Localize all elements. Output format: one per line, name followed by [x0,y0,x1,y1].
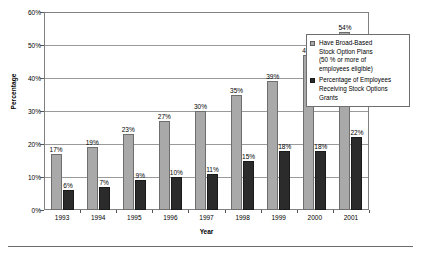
bar[interactable] [315,151,326,210]
bar[interactable] [195,111,206,210]
bar[interactable] [171,177,182,210]
legend-label-line: employees eligible) [319,65,406,74]
bar-group: 17%6% [51,12,74,210]
bar-value-label: 54% [338,24,351,31]
x-axis-tick-labels: 199319941995199619971998199920002001 [44,214,369,226]
x-axis-tick-mark [333,210,334,213]
legend-label-line: Have Broad-Based [319,39,406,48]
bar-value-label: 30% [194,103,207,110]
legend-label-line: (50 % or more of [319,56,406,65]
bar[interactable] [51,154,62,210]
x-axis-tick-mark [369,210,370,213]
bar-value-label: 18% [278,143,291,150]
bar-group: 19%7% [87,12,110,210]
legend-entry[interactable]: Percentage of EmployeesReceiving Stock O… [310,76,406,102]
x-axis-tick-label: 2000 [308,214,322,221]
x-axis-tick-label: 1994 [91,214,105,221]
x-axis-tick-label: 1993 [55,214,69,221]
legend-label-line: Receiving Stock Options [319,85,406,94]
bar-value-label: 9% [136,172,145,179]
bar-value-label: 19% [86,139,99,146]
footer-divider [8,246,413,247]
bar-chart-figure: Percentage 0%10%20%30%40%50%60% 17%6%19%… [0,0,421,258]
bar[interactable] [123,134,134,210]
bar-value-label: 22% [350,129,363,136]
bar[interactable] [87,147,98,210]
legend-label-line: Stock Option Plans [319,48,406,57]
bar-group: 39%18% [267,12,290,210]
bar[interactable] [267,81,278,210]
bar[interactable] [159,121,170,210]
x-axis-tick-label: 1996 [163,214,177,221]
bar-value-label: 6% [63,182,72,189]
x-axis-tick-mark [152,210,153,213]
legend-label-line: Grants [319,94,406,103]
bar-group: 23%9% [123,12,146,210]
x-axis-tick-label: 1998 [235,214,249,221]
bar-value-label: 23% [122,126,135,133]
bar-value-label: 35% [230,87,243,94]
bar-group: 35%15% [231,12,254,210]
bar-group: 30%11% [195,12,218,210]
bar-value-label: 15% [242,153,255,160]
x-axis-tick-mark [116,210,117,213]
bar-value-label: 18% [314,143,327,150]
bar-value-label: 39% [266,73,279,80]
bar-value-label: 11% [206,166,219,173]
x-axis-tick-mark [188,210,189,213]
x-axis-tick-mark [80,210,81,213]
bar-value-label: 27% [158,113,171,120]
x-axis-tick-label: 1995 [127,214,141,221]
bar[interactable] [135,180,146,210]
x-axis-tick-label: 2001 [344,214,358,221]
bar[interactable] [99,187,110,210]
x-axis-tick-label: 1999 [271,214,285,221]
x-axis-tick-mark [261,210,262,213]
bar-value-label: 7% [99,179,108,186]
bar[interactable] [207,174,218,210]
x-axis-tick-mark [225,210,226,213]
legend-entry[interactable]: Have Broad-BasedStock Option Plans(50 % … [310,39,406,73]
bar-value-label: 10% [170,169,183,176]
bar-value-label: 17% [50,146,63,153]
x-axis-tick-label: 1997 [199,214,213,221]
bar[interactable] [351,137,362,210]
chart-legend: Have Broad-BasedStock Option Plans(50 % … [306,34,410,107]
x-axis-title: Year [44,228,369,235]
bar[interactable] [231,95,242,211]
legend-swatch-icon [310,78,315,83]
bar[interactable] [279,151,290,210]
bar-group: 27%10% [159,12,182,210]
y-axis-tick-marks [0,12,44,210]
bar[interactable] [63,190,74,210]
legend-label-line: Percentage of Employees [319,76,406,85]
x-axis-tick-mark [297,210,298,213]
legend-swatch-icon [310,41,315,46]
bar[interactable] [243,161,254,211]
